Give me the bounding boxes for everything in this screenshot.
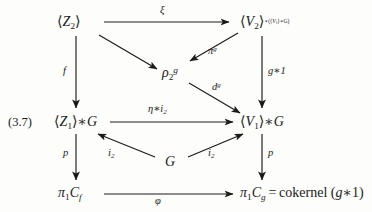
node-bottom-right: π1Cg = cokernel (g∗1) <box>240 186 364 202</box>
edge-label-phi: φ <box>155 196 161 207</box>
edge-label-i2-left: i2 <box>108 148 114 160</box>
edge-label-pi-g: πg <box>208 46 217 57</box>
node-center-low-g: G <box>165 155 175 169</box>
node-mid-left: ⟨Z1⟩∗G <box>54 114 97 131</box>
edge-label-p-left: p <box>63 148 68 159</box>
arrow-i2-left <box>98 134 155 157</box>
node-center-rho: ρ2g <box>162 66 178 82</box>
equation-number: (3.7) <box>8 116 32 129</box>
arrow-i2-right <box>188 134 243 157</box>
edge-label-p-right: p <box>268 148 273 159</box>
node-bottom-left: π1Cf <box>58 186 82 202</box>
node-top-left: ⟨Z2⟩ <box>57 14 81 31</box>
edge-label-i2-right: i2 <box>208 148 214 160</box>
edge-label-xi: ξ <box>160 5 165 16</box>
edge-label-g-star-1: g∗1 <box>268 66 286 77</box>
edge-label-eta-star-i2: η∗i2 <box>148 104 167 116</box>
diagram-arrows <box>0 0 372 212</box>
edge-label-f: f <box>63 66 66 77</box>
edge-label-d-g: dg <box>212 82 221 93</box>
node-top-right: ⟨V2⟩∗(⟨V1⟩∗G) <box>240 14 289 31</box>
arrow-z2-to-rho <box>99 35 157 69</box>
commutative-diagram: (3.7) ⟨Z2⟩ ⟨V2⟩∗(⟨V1⟩∗G) ρ2g ⟨Z1⟩∗G ⟨V1⟩… <box>0 0 372 212</box>
node-mid-right: ⟨V1⟩∗G <box>240 114 284 131</box>
